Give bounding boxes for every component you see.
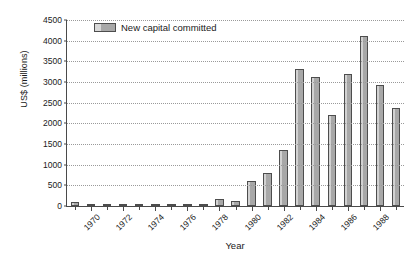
y-axis-tick <box>64 144 67 145</box>
x-axis-tick <box>75 206 76 210</box>
y-axis-tick <box>64 206 67 207</box>
y-axis-tick-label: 500 <box>48 180 62 190</box>
x-axis-tick <box>284 206 285 211</box>
x-axis-tick <box>107 206 108 210</box>
x-axis-title: Year <box>66 240 404 251</box>
gridline <box>67 144 404 145</box>
bar <box>328 115 337 206</box>
legend-label-new-capital-committed: New capital committed <box>121 22 217 33</box>
bar <box>263 173 272 206</box>
y-axis-tick-label: 2500 <box>43 98 62 108</box>
x-axis-tick-label: 1978 <box>210 212 230 232</box>
x-axis-tick <box>155 206 156 211</box>
x-axis-tick <box>236 206 237 210</box>
y-axis-tick-label: 1000 <box>43 160 62 170</box>
y-axis-tick <box>64 82 67 83</box>
x-axis-tick <box>396 206 397 210</box>
gridline <box>67 165 404 166</box>
y-axis-tick <box>64 123 67 124</box>
plot-area: 0500100015002000250030003500400045001970… <box>66 20 404 207</box>
gridline <box>67 82 404 83</box>
x-axis-tick-label: 1988 <box>371 212 391 232</box>
y-axis-tick <box>64 61 67 62</box>
x-axis-tick <box>139 206 140 210</box>
x-axis-tick <box>187 206 188 211</box>
gridline <box>67 123 404 124</box>
bar <box>215 199 224 206</box>
y-axis-title: US$ (millions) <box>19 19 29 139</box>
y-axis-tick-label: 4000 <box>43 36 62 46</box>
y-axis-tick-label: 1500 <box>43 139 62 149</box>
x-axis-tick-label: 1970 <box>82 212 102 232</box>
y-axis-tick <box>64 20 67 21</box>
y-axis-tick-label: 0 <box>57 201 62 211</box>
y-axis-tick-label: 2000 <box>43 118 62 128</box>
bar-chart: US$ (millions) 0500100015002000250030003… <box>0 0 414 263</box>
x-axis-tick <box>219 206 220 211</box>
y-axis-tick-label: 4500 <box>43 15 62 25</box>
x-axis-tick-label: 1976 <box>178 212 198 232</box>
x-axis-tick <box>380 206 381 211</box>
bar-series-new-capital-committed <box>67 20 404 206</box>
legend-swatch-new-capital-committed <box>94 23 116 32</box>
x-axis-tick <box>123 206 124 211</box>
x-axis-tick <box>171 206 172 210</box>
x-axis-tick-label: 1986 <box>338 212 358 232</box>
gridline <box>67 41 404 42</box>
y-axis-tick-label: 3500 <box>43 56 62 66</box>
x-axis-tick <box>252 206 253 211</box>
legend: New capital committed <box>94 22 217 33</box>
x-axis-tick <box>364 206 365 210</box>
x-axis-tick <box>300 206 301 210</box>
x-axis-tick-label: 1974 <box>146 212 166 232</box>
gridline <box>67 185 404 186</box>
x-axis-tick-label: 1982 <box>274 212 294 232</box>
y-axis-tick <box>64 164 67 165</box>
y-axis-tick <box>64 40 67 41</box>
x-axis-tick <box>268 206 269 210</box>
y-axis-tick <box>64 185 67 186</box>
x-axis-tick <box>203 206 204 210</box>
x-axis-tick <box>316 206 317 211</box>
x-axis-tick <box>332 206 333 210</box>
y-axis-tick <box>64 102 67 103</box>
gridline <box>67 20 404 21</box>
x-axis-tick <box>91 206 92 211</box>
x-axis-tick-label: 1972 <box>114 212 134 232</box>
x-axis-tick-label: 1980 <box>242 212 262 232</box>
x-axis-tick <box>348 206 349 211</box>
bar <box>279 150 288 206</box>
gridline <box>67 61 404 62</box>
bar <box>311 77 320 206</box>
x-axis-tick-label: 1984 <box>306 212 326 232</box>
gridline <box>67 103 404 104</box>
y-axis-tick-label: 3000 <box>43 77 62 87</box>
